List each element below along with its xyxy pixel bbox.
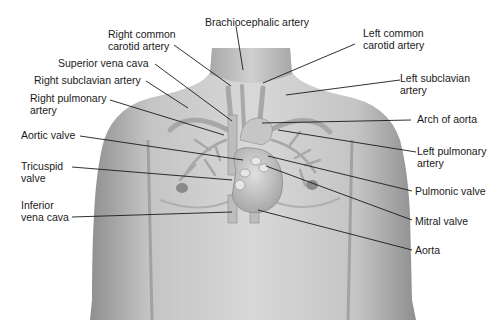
label-right-common-carotid-line2: carotid artery — [108, 41, 169, 53]
label-left-pulmonary-line1: Left pulmonary — [417, 146, 486, 158]
label-left-subclavian-line1: Left subclavian — [400, 73, 470, 85]
label-right-subclavian-artery: Right subclavian artery — [34, 75, 141, 87]
anatomy-diagram: Brachiocephalic artery Right common caro… — [0, 0, 501, 323]
label-left-common-carotid-line1: Left common — [363, 28, 424, 40]
label-inferior-vena-cava-line2: vena cava — [21, 212, 69, 224]
label-left-subclavian-line2: artery — [400, 85, 427, 97]
label-arch-of-aorta: Arch of aorta — [417, 114, 477, 126]
label-right-common-carotid-line1: Right common — [108, 29, 176, 41]
label-left-pulmonary-line2: artery — [417, 158, 444, 170]
label-inferior-vena-cava-line1: Inferior — [21, 200, 54, 212]
label-tricuspid-line2: valve — [21, 173, 46, 185]
label-aortic-valve: Aortic valve — [21, 130, 75, 142]
label-mitral-valve: Mitral valve — [415, 216, 468, 228]
label-brachiocephalic-artery: Brachiocephalic artery — [205, 17, 309, 29]
label-right-pulmonary-line2: artery — [30, 105, 57, 117]
label-right-pulmonary-line1: Right pulmonary — [30, 93, 106, 105]
label-superior-vena-cava: Superior vena cava — [58, 58, 148, 70]
label-left-common-carotid-line2: carotid artery — [363, 40, 424, 52]
label-aorta: Aorta — [415, 245, 440, 257]
label-pulmonic-valve: Pulmonic valve — [415, 186, 486, 198]
label-tricuspid-line1: Tricuspid — [21, 161, 63, 173]
